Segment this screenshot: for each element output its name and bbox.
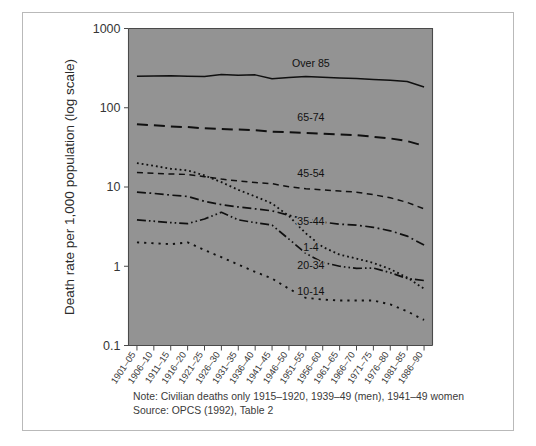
y-tick-label: 1000	[93, 22, 121, 36]
figure-root: 10001001010.1Death rate per 1,000 popula…	[0, 0, 536, 446]
chart-source: Source: OPCS (1992), Table 2	[133, 405, 273, 416]
series-label-over-85: Over 85	[292, 57, 330, 69]
series-label-1-4: 1-4	[303, 241, 318, 253]
series-label-20-34: 20-34	[297, 259, 324, 271]
chart-note: Note: Civilian deaths only 1915–1920, 19…	[133, 391, 464, 402]
y-tick-label: 1	[114, 260, 121, 274]
line-chart: 10001001010.1Death rate per 1,000 popula…	[0, 0, 536, 446]
series-label-35-44: 35-44	[297, 215, 324, 227]
y-axis-title: Death rate per 1,000 population (log sca…	[62, 59, 77, 315]
series-label-65-74: 65-74	[297, 111, 324, 123]
y-tick-label: 10	[107, 180, 121, 194]
y-tick-label: 100	[100, 101, 121, 115]
series-label-10-14: 10-14	[297, 285, 324, 297]
series-label-45-54: 45-54	[297, 167, 324, 179]
y-tick-label: 0.1	[103, 339, 120, 353]
